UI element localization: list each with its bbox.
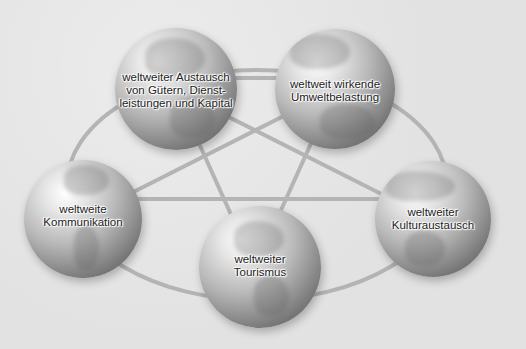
label-line: von Gütern, Dienst- bbox=[115, 84, 237, 97]
label-line: leistungen und Kapital bbox=[115, 97, 237, 110]
continent-shape bbox=[74, 225, 99, 270]
globalization-diagram: weltweiter Austausch von Gütern, Dienst-… bbox=[0, 0, 526, 349]
globe-tourismus: weltweiter Tourismus bbox=[199, 206, 321, 328]
continent-shape bbox=[405, 231, 445, 266]
label-line: weltweite bbox=[24, 203, 142, 216]
continent-shape bbox=[320, 104, 375, 139]
globe-kommunikation: weltweite Kommunikation bbox=[24, 160, 142, 278]
label-line: Kommunikation bbox=[24, 216, 142, 229]
continent-shape bbox=[64, 165, 109, 195]
continent-shape bbox=[290, 34, 350, 69]
globe-label: weltweite Kommunikation bbox=[24, 203, 142, 229]
label-line: weltweiter bbox=[375, 206, 491, 219]
label-line: weltweiter Austausch bbox=[115, 71, 237, 84]
label-line: Kulturaustausch bbox=[375, 219, 491, 232]
globe-label: weltweit wirkende Umweltbelastung bbox=[275, 78, 395, 104]
label-line: weltweit wirkende bbox=[275, 78, 395, 91]
continent-shape bbox=[254, 276, 289, 316]
globe-austausch: weltweiter Austausch von Gütern, Dienst-… bbox=[115, 28, 237, 150]
globe-label: weltweiter Tourismus bbox=[199, 253, 321, 279]
label-line: Umweltbelastung bbox=[275, 91, 395, 104]
globe-label: weltweiter Kulturaustausch bbox=[375, 206, 491, 232]
globe-kultur: weltweiter Kulturaustausch bbox=[375, 161, 491, 277]
continent-shape bbox=[234, 221, 284, 256]
globe-label: weltweiter Austausch von Gütern, Dienst-… bbox=[115, 71, 237, 110]
label-line: weltweiter bbox=[199, 253, 321, 266]
label-line: Tourismus bbox=[199, 266, 321, 279]
globe-umwelt: weltweit wirkende Umweltbelastung bbox=[275, 29, 395, 149]
continent-shape bbox=[385, 171, 455, 201]
